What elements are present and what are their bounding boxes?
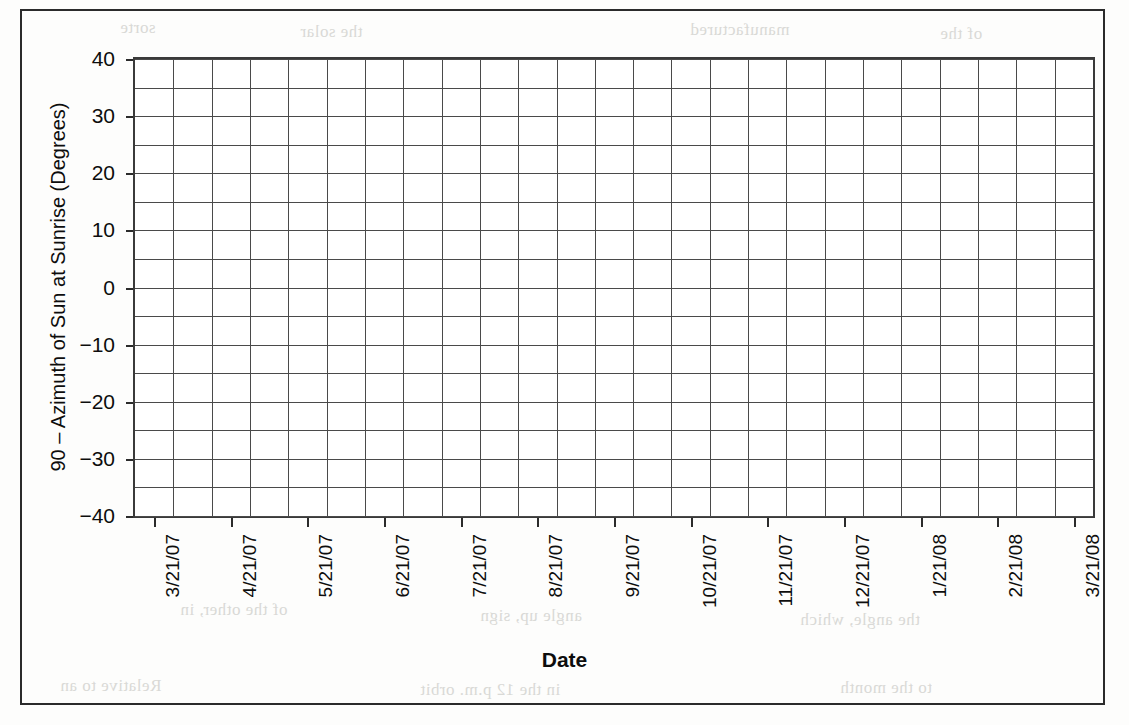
y-axis-tick-label: 20 xyxy=(92,162,115,183)
y-axis-tick-mark xyxy=(126,288,133,290)
y-axis-tick-label: −40 xyxy=(79,505,115,526)
y-axis-tick-label: 0 xyxy=(103,277,115,298)
x-axis-tick-mark xyxy=(921,518,923,527)
x-axis-tick-label: 11/21/07 xyxy=(776,534,795,607)
x-axis-tick-mark xyxy=(1074,518,1076,527)
x-axis-tick-label: 5/21/07 xyxy=(316,534,335,597)
y-axis-tick-label: −10 xyxy=(79,334,115,355)
y-axis-tick-mark xyxy=(126,230,133,232)
x-axis-tick-mark xyxy=(307,518,309,527)
x-axis-tick-label: 3/21/08 xyxy=(1083,534,1102,597)
x-axis-tick-mark xyxy=(537,518,539,527)
x-axis-tick-label: 2/21/08 xyxy=(1006,534,1025,597)
y-axis-tick-mark xyxy=(126,402,133,404)
x-axis-tick-label: 9/21/07 xyxy=(623,534,642,597)
y-axis-tick-label: 30 xyxy=(92,105,115,126)
y-axis-tick-mark xyxy=(126,345,133,347)
y-axis-tick-mark xyxy=(126,59,133,61)
x-axis-tick-label: 4/21/07 xyxy=(240,534,259,597)
y-axis-tick-label: −20 xyxy=(79,391,115,412)
x-axis-tick-mark xyxy=(844,518,846,527)
x-axis-tick-mark xyxy=(384,518,386,527)
x-axis-tick-label: 7/21/07 xyxy=(470,534,489,597)
x-axis-tick-mark xyxy=(154,518,156,527)
x-axis-tick-mark xyxy=(767,518,769,527)
y-axis-title: 90 – Azimuth of Sun at Sunrise (Degrees) xyxy=(47,102,70,471)
y-axis-tick-mark xyxy=(126,516,133,518)
x-axis-tick-label: 12/21/07 xyxy=(853,534,872,608)
plot-area xyxy=(133,57,1095,518)
y-axis-tick-mark xyxy=(126,116,133,118)
y-axis-tick-label: −30 xyxy=(79,448,115,469)
x-axis-tick-mark xyxy=(997,518,999,527)
data-series-layer xyxy=(135,59,1093,516)
y-axis-tick-mark xyxy=(126,459,133,461)
x-axis-tick-label: 1/21/08 xyxy=(930,534,949,597)
y-axis-tick-mark xyxy=(126,173,133,175)
x-axis-title: Date xyxy=(0,648,1129,672)
x-axis-tick-label: 6/21/07 xyxy=(393,534,412,597)
x-axis-tick-mark xyxy=(691,518,693,527)
y-axis-tick-label: 10 xyxy=(92,219,115,240)
x-axis-tick-mark xyxy=(461,518,463,527)
x-axis-tick-mark xyxy=(614,518,616,527)
x-axis-tick-label: 10/21/07 xyxy=(700,534,719,608)
x-axis-tick-mark xyxy=(231,518,233,527)
scanned-chart-page: sortethe solarmanufacturedof thepoolhori… xyxy=(0,0,1129,725)
x-axis-tick-label: 3/21/07 xyxy=(163,534,182,597)
x-axis-tick-label: 8/21/07 xyxy=(546,534,565,597)
y-axis-tick-label: 40 xyxy=(92,48,115,69)
gridline-horizontal xyxy=(135,516,1093,517)
